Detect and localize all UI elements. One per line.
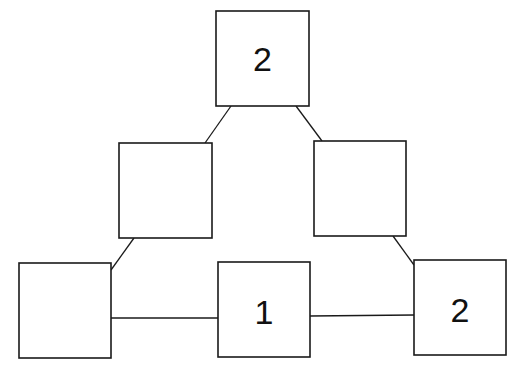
edge-mid-left-to-bottom-left — [111, 238, 134, 270]
node-mid-right — [314, 141, 406, 236]
edge-mid-right-to-bottom-right — [393, 236, 414, 265]
node-top-label: 2 — [253, 40, 272, 78]
node-bottom-left — [19, 263, 111, 358]
edge-top-to-mid-right — [296, 106, 322, 141]
node-bottom-center-label: 1 — [255, 293, 274, 331]
node-bottom-right-label: 2 — [451, 291, 470, 329]
edge-top-to-mid-left — [205, 106, 231, 143]
node-mid-left — [119, 143, 212, 238]
edge-bottom-center-to-bottom-right — [310, 315, 414, 316]
node-bottom-right: 2 — [414, 260, 506, 355]
diagram-canvas: 2 1 2 — [0, 0, 524, 381]
node-top: 2 — [216, 11, 309, 106]
node-bottom-center: 1 — [218, 262, 310, 357]
